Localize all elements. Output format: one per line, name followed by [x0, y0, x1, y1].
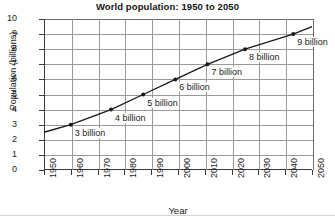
- data-point-label: 8 billion: [248, 52, 281, 62]
- x-axis-tick-label: 2000: [182, 158, 192, 178]
- x-axis-tick-label: 1980: [128, 158, 138, 178]
- data-point-label: 7 billion: [210, 67, 243, 77]
- data-point-label: 3 billion: [74, 128, 107, 138]
- data-point-marker: [243, 47, 247, 51]
- bottom-divider: [0, 215, 335, 216]
- data-point-marker: [173, 77, 177, 81]
- x-axis-tick-mark: [312, 170, 313, 175]
- y-axis-tick-mark: [39, 49, 44, 50]
- population-chart: World population: 1950 to 2050 012345678…: [0, 0, 335, 222]
- x-axis-tick-mark: [151, 170, 152, 175]
- x-axis-tick-mark: [285, 170, 286, 175]
- data-point-label: 9 billion: [296, 37, 329, 47]
- y-axis-tick-mark: [39, 34, 44, 35]
- x-axis-tick-mark: [98, 170, 99, 175]
- x-axis-tick-mark: [124, 170, 125, 175]
- y-axis-tick-mark: [39, 79, 44, 80]
- y-axis-title: Population (billions): [8, 6, 18, 136]
- y-axis-tick-mark: [39, 140, 44, 141]
- y-axis-tick-mark: [39, 19, 44, 20]
- x-axis-tick-mark: [178, 170, 179, 175]
- data-point-marker: [291, 32, 295, 36]
- y-axis-tick-mark: [39, 64, 44, 65]
- x-axis-tick-mark: [71, 170, 72, 175]
- x-axis-tick-label: 1960: [75, 158, 85, 178]
- x-axis-tick-mark: [258, 170, 259, 175]
- x-axis-tick-label: 1970: [102, 158, 112, 178]
- x-axis-tick-label: 2010: [209, 158, 219, 178]
- x-axis-tick-mark: [44, 170, 45, 175]
- y-axis-tick-mark: [39, 155, 44, 156]
- x-axis-tick-label: 2050: [316, 158, 326, 178]
- chart-title: World population: 1950 to 2050: [0, 1, 335, 12]
- x-axis-tick-mark: [205, 170, 206, 175]
- y-axis-tick-mark: [39, 110, 44, 111]
- x-axis-tick-label: 1990: [155, 158, 165, 178]
- y-axis-tick-mark: [39, 125, 44, 126]
- data-point-label: 4 billion: [114, 113, 147, 123]
- y-axis-tick-label: 0: [0, 164, 17, 174]
- x-axis-tick-label: 2020: [236, 158, 246, 178]
- data-point-label: 6 billion: [178, 82, 211, 92]
- data-point-marker: [205, 62, 209, 66]
- data-point-marker: [69, 123, 73, 127]
- x-axis-tick-label: 1950: [48, 158, 58, 178]
- data-point-marker: [141, 93, 145, 97]
- series-line: [44, 19, 312, 170]
- population-trend-line: [44, 27, 312, 133]
- y-axis-tick-mark: [39, 95, 44, 96]
- x-axis-tick-mark: [232, 170, 233, 175]
- data-point-label: 5 billion: [146, 98, 179, 108]
- y-axis-tick-label: 1: [0, 149, 17, 159]
- x-axis-tick-label: 2030: [262, 158, 272, 178]
- data-point-marker: [109, 108, 113, 112]
- x-axis-tick-label: 2040: [289, 158, 299, 178]
